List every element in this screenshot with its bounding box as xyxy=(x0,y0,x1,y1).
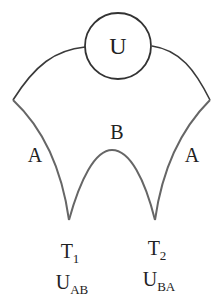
voltage-uba-main: U xyxy=(143,268,157,290)
junction-t2-name: T xyxy=(148,237,160,259)
junction-label-t2: T2 xyxy=(148,238,167,258)
junction-t1-index: 1 xyxy=(73,251,80,266)
junction-t2-index: 2 xyxy=(160,248,167,263)
wire-top-right xyxy=(152,46,210,100)
junction-t1-name: T xyxy=(61,240,73,262)
conductor-label-a-right: A xyxy=(185,145,199,165)
junction-label-t1: T1 xyxy=(61,241,80,261)
voltage-uba-sub: BA xyxy=(157,279,175,294)
conductor-a-right xyxy=(155,100,210,220)
voltage-label-uba: UBA xyxy=(143,269,176,289)
conductor-label-b: B xyxy=(110,122,123,142)
voltage-uab-sub: AB xyxy=(70,282,88,297)
voltage-uab-main: U xyxy=(56,271,70,293)
thermocouple-diagram: U A B A T1 UAB T2 UBA xyxy=(0,0,219,308)
conductor-b xyxy=(69,150,155,220)
conductor-label-a-left: A xyxy=(28,145,42,165)
voltage-label-uab: UAB xyxy=(56,272,89,292)
wire-top-left xyxy=(13,47,85,100)
meter-label: U xyxy=(109,34,126,58)
